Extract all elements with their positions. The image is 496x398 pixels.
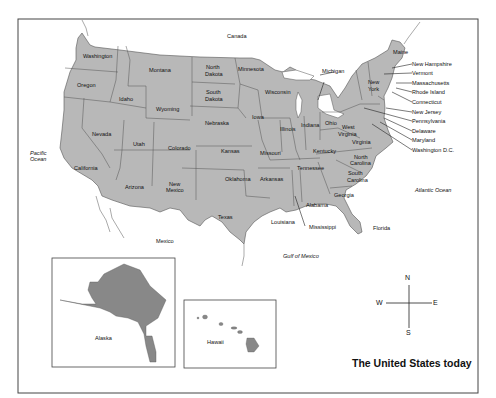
label-oklahoma: Oklahoma	[225, 176, 251, 182]
callout-washington-dc: Washington D.C.	[412, 147, 454, 153]
label-montana: Montana	[149, 67, 171, 73]
label-iowa: Iowa	[252, 114, 264, 120]
label-tennessee: Tennessee	[297, 165, 324, 171]
label-california: California	[74, 165, 98, 171]
label-wisconsin: Wisconsin	[265, 89, 291, 95]
callout-new-jersey: New Jersey	[412, 109, 441, 115]
label-mississippi: Mississippi	[309, 224, 336, 230]
label-alabama: Alabama	[306, 202, 328, 208]
label-oregon: Oregon	[77, 82, 96, 88]
label-utah: Utah	[133, 141, 145, 147]
map-figure: Canada Pacific Ocean Atlantic Ocean Gulf…	[0, 0, 496, 398]
label-gulf-of-mexico: Gulf of Mexico	[283, 253, 319, 259]
label-new-mexico-2: Mexico	[166, 187, 184, 193]
label-canada: Canada	[227, 33, 247, 39]
label-kansas: Kansas	[221, 148, 240, 154]
label-west-virginia-1: West	[342, 124, 355, 130]
label-ohio: Ohio	[325, 120, 337, 126]
label-illinois: Illinois	[280, 126, 296, 132]
label-washington: Washington	[83, 53, 112, 59]
label-florida: Florida	[373, 225, 390, 231]
callout-pennsylvania: Pennsylvania	[412, 118, 445, 124]
callout-connecticut: Connecticut	[412, 99, 442, 105]
label-south-carolina-1: South	[348, 170, 363, 176]
label-arizona: Arizona	[125, 184, 144, 190]
label-georgia: Georgia	[334, 192, 354, 198]
label-south-dakota-2: Dakota	[205, 96, 223, 102]
label-north-carolina-2: Carolina	[350, 160, 371, 166]
label-texas: Texas	[218, 214, 233, 220]
label-south-dakota-1: South	[206, 89, 221, 95]
label-mexico: Mexico	[156, 238, 174, 244]
compass-n: N	[405, 274, 410, 281]
callout-delaware: Delaware	[412, 128, 436, 134]
label-west-virginia-2: Virginia	[338, 131, 357, 137]
label-wyoming: Wyoming	[156, 106, 179, 112]
label-minnesota: Minnesota	[238, 66, 264, 72]
label-kentucky: Kentucky	[313, 148, 336, 154]
label-indiana: Indiana	[301, 122, 319, 128]
compass-s: S	[406, 329, 411, 336]
label-hawaii: Hawaii	[207, 339, 224, 345]
label-atlantic-ocean: Atlantic Ocean	[415, 187, 451, 193]
label-pacific-ocean-2: Ocean	[30, 156, 46, 162]
label-virginia: Virginia	[352, 139, 371, 145]
label-nebraska: Nebraska	[205, 120, 229, 126]
label-north-dakota-1: North	[206, 64, 220, 70]
label-missouri: Missouri	[260, 150, 281, 156]
label-new-york-1: New	[368, 79, 379, 85]
label-colorado: Colorado	[168, 145, 191, 151]
label-nevada: Nevada	[92, 131, 111, 137]
label-south-carolina-2: Carolina	[347, 177, 368, 183]
callout-massachusetts: Massachusetts	[412, 80, 449, 86]
map-title: The United States today	[352, 357, 472, 369]
label-idaho: Idaho	[119, 96, 133, 102]
label-north-dakota-2: Dakota	[205, 71, 223, 77]
label-new-york-2: York	[368, 86, 379, 92]
compass-e: E	[433, 299, 438, 306]
hawaii-inset-frame	[184, 300, 276, 368]
callout-maryland: Maryland	[412, 137, 435, 143]
label-louisiana: Louisiana	[271, 219, 295, 225]
callout-new-hampshire: New Hampshire	[412, 61, 452, 67]
label-michigan: Michigan	[322, 68, 344, 74]
label-maine: Maine	[393, 49, 408, 55]
label-alaska: Alaska	[95, 335, 112, 341]
label-arkansas: Arkansas	[260, 176, 283, 182]
callout-vermont: Vermont	[412, 70, 433, 76]
callout-rhode-island: Rhode Island	[412, 89, 445, 95]
compass-w: W	[376, 299, 383, 306]
map-svg	[0, 0, 496, 398]
